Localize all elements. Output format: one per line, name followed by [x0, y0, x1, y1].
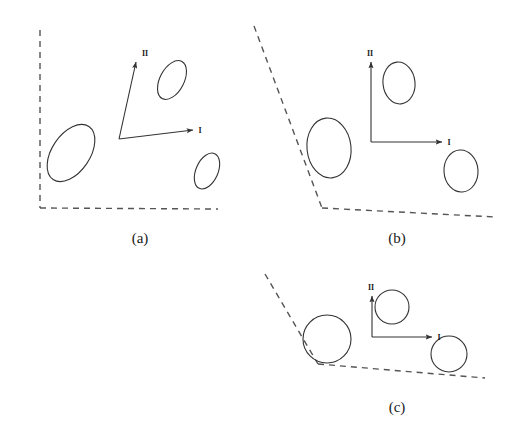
- axis-I-label-panel-c: I: [437, 333, 440, 342]
- schematic-figure: III(a)III(b)III(c): [0, 0, 513, 429]
- panel-caption-b: (b): [388, 230, 406, 247]
- panel-caption-c: (c): [389, 399, 406, 416]
- axis-II-label-panel-c: II: [368, 283, 374, 292]
- axis-II-label-panel-b: II: [367, 49, 373, 58]
- axis-I-label-panel-a: I: [198, 126, 201, 135]
- figure-container: III(a)III(b)III(c): [0, 0, 513, 429]
- axis-I-label-panel-b: I: [447, 138, 450, 147]
- axis-II-label-panel-a: II: [142, 49, 148, 58]
- panel-caption-a: (a): [132, 230, 149, 247]
